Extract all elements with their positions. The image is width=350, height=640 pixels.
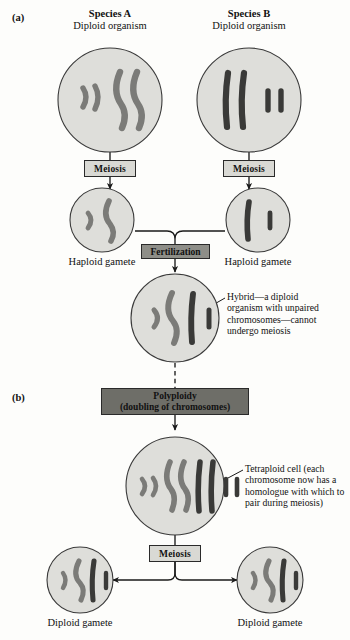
process-box-meiosis-left[interactable]: Meiosis: [84, 160, 136, 177]
cell-species-a-parent: [58, 48, 162, 152]
process-box-polyploidy[interactable]: Polyploidy (doubling of chromosomes): [101, 388, 249, 415]
cell-haploid-gamete-b: [226, 188, 290, 252]
cell-tetraploid: [126, 437, 237, 535]
process-box-meiosis-right[interactable]: Meiosis: [223, 160, 275, 177]
cell-haploid-gamete-a: [70, 188, 134, 252]
annotation-hybrid: Hybrid—a diploid organism with unpaired …: [227, 291, 327, 336]
caption-diploid-gamete-left: Diploid gamete: [20, 617, 140, 628]
caption-diploid-gamete-right: Diploid gamete: [210, 617, 330, 628]
species-b-name: Species B: [189, 8, 309, 20]
polyploidy-line-2: (doubling of chromosomes): [120, 402, 230, 413]
cell-diploid-gamete-left: [47, 547, 113, 613]
species-b-subtitle: Diploid organism: [189, 20, 309, 32]
polyploidy-line-1: Polyploidy: [153, 391, 196, 402]
cell-hybrid: [131, 274, 219, 362]
caption-haploid-gamete-left: Haploid gamete: [42, 256, 162, 267]
figure-canvas: (a) (b) Species A Diploid organism Speci…: [0, 0, 350, 640]
header-species-a: Species A Diploid organism: [50, 8, 170, 32]
annotation-tetraploid: Tetraploid cell (each chromosome now has…: [245, 463, 348, 508]
species-a-name: Species A: [50, 8, 170, 20]
cell-diploid-gamete-right: [237, 547, 303, 613]
panel-label-b: (b): [12, 392, 25, 403]
panel-label-a: (a): [12, 12, 24, 23]
species-a-subtitle: Diploid organism: [50, 20, 170, 32]
process-box-meiosis-bottom[interactable]: Meiosis: [149, 545, 201, 562]
cell-species-b-parent: [197, 48, 301, 152]
caption-haploid-gamete-right: Haploid gamete: [198, 256, 318, 267]
header-species-b: Species B Diploid organism: [189, 8, 309, 32]
